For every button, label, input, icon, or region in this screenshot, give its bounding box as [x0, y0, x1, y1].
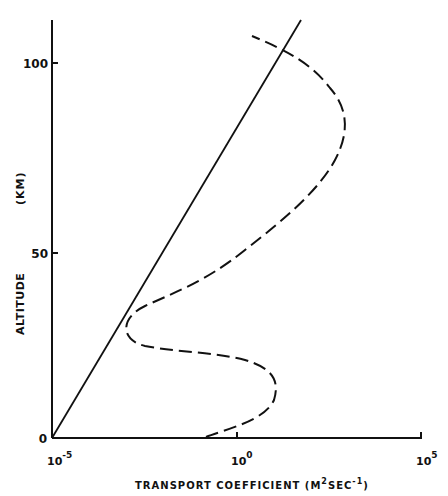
chart: 100 50 0 10-5 100 105 TRANSPORT COEFFICI…	[0, 0, 448, 496]
ytick-label-50: 50	[31, 247, 48, 261]
ytick-label-100: 100	[23, 57, 48, 71]
xtick-label-right: 105	[416, 450, 438, 468]
xtick-label-left: 10-5	[47, 450, 72, 468]
dashed-series-curve	[126, 36, 345, 437]
solid-series-line	[52, 20, 301, 438]
x-axis-title: TRANSPORT COEFFICIENT (M2SEC-1)	[135, 477, 369, 491]
y-axis-units: (KM)	[14, 171, 27, 205]
y-axis-title: ALTITUDE	[14, 273, 27, 335]
ytick-label-0: 0	[39, 432, 47, 446]
xtick-label-mid: 100	[231, 450, 253, 468]
